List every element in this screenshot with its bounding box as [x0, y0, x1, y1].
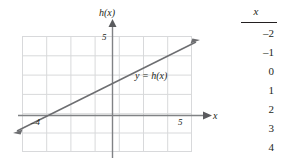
- table-row: 3: [236, 119, 276, 138]
- table-header-rule: [241, 22, 277, 23]
- x-axis-tick-label-5: 5: [178, 118, 183, 127]
- table-row: 0: [236, 62, 276, 81]
- values-table: x –2 –1 0 1 2 3 4: [236, 0, 285, 162]
- table-column-values: –2 –1 0 1 2 3 4: [236, 24, 276, 157]
- table-row: –1: [236, 43, 276, 62]
- function-equation-label: y = h(x): [135, 71, 167, 81]
- y-axis-tick-label-5: 5: [102, 33, 107, 42]
- x-axis-label: x: [213, 111, 217, 121]
- table-row: –2: [236, 24, 276, 43]
- table-row: 1: [236, 81, 276, 100]
- y-axis: [109, 19, 117, 158]
- x-axis-tick-label-negative-4: –4: [31, 118, 40, 127]
- table-row: 2: [236, 100, 276, 119]
- coordinate-plane: [0, 0, 225, 162]
- graph-panel: h(x) x 5 5 –4 y = h(x): [0, 0, 225, 162]
- function-line: [13, 38, 200, 134]
- y-axis-label: h(x): [99, 8, 115, 18]
- table-row: 4: [236, 138, 276, 157]
- grid-lines: [22, 36, 192, 152]
- table-column-header-x: x: [236, 6, 276, 17]
- figure: h(x) x 5 5 –4 y = h(x) x –2 –1 0 1 2 3 4: [0, 0, 285, 162]
